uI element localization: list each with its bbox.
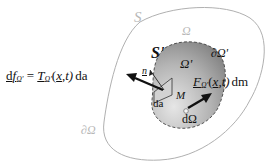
bf-args: ,t) (218, 74, 229, 89)
outer-boundary-label: ∂Ω (81, 124, 96, 136)
normal-label: n (142, 66, 147, 76)
point-label: M (176, 90, 185, 101)
continuum-mechanics-diagram: S Ω S' ∂Ω' Ω' n M da dΩ ∂Ω dfΩ' = TΩ'(x,… (0, 0, 275, 164)
eq-f-sub: Ω' (16, 75, 23, 84)
body-force-expression: FΩ'(x,t)dm (193, 75, 248, 90)
outer-surface-label: S (134, 10, 142, 25)
area-element-label: da (153, 98, 163, 109)
inner-surface-label: S' (151, 45, 164, 61)
bf-dm: dm (232, 74, 249, 89)
eq-args: ,t) (62, 68, 73, 83)
bf-F: F (193, 74, 201, 89)
eq-da: da (75, 68, 87, 83)
eq-T-sub: Ω' (45, 75, 52, 84)
volume-element-label: dΩ (182, 113, 197, 125)
eq-equals: = (27, 68, 34, 83)
inner-boundary-label: ∂Ω' (211, 47, 228, 59)
inner-domain-label: Ω' (180, 57, 192, 70)
eq-T: T (37, 68, 44, 83)
outer-domain-label: Ω (182, 25, 191, 37)
surface-force-equation: dfΩ' = TΩ'(x,t)da (6, 69, 87, 84)
